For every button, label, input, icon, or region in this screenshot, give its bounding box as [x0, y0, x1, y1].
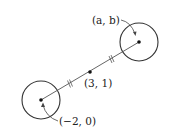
- left-center-point: [39, 98, 43, 102]
- label-left-center: (−2, 0): [59, 115, 96, 127]
- right-center-point: [137, 40, 141, 44]
- diagram: (a, b) (3, 1) (−2, 0): [0, 0, 173, 134]
- label-midpoint: (3, 1): [84, 77, 112, 89]
- label-right-center: (a, b): [92, 14, 120, 26]
- arrow-head-right: [133, 32, 137, 37]
- midpoint: [88, 70, 92, 74]
- arrow-head-left: [41, 103, 45, 108]
